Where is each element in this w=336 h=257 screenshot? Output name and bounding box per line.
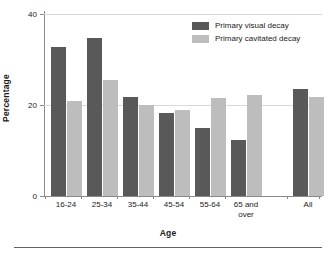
legend-label-visual: Primary visual decay [215, 21, 289, 30]
x-axis-title: Age [0, 228, 336, 238]
bar [103, 80, 118, 196]
bar [159, 113, 174, 196]
chart-legend: Primary visual decay Primary cavitated d… [192, 19, 300, 45]
y-tick-label-20: 20 [28, 101, 37, 110]
x-tick [319, 196, 320, 199]
bar [211, 98, 226, 196]
bar [195, 128, 210, 196]
x-tick [287, 196, 288, 199]
x-axis-line [44, 196, 322, 197]
bar [67, 101, 82, 196]
bar-group [122, 14, 154, 196]
x-category-label-line: over [215, 210, 277, 220]
bar-group [50, 14, 82, 196]
x-category-label-line: 65 and [215, 200, 277, 210]
x-tick [45, 196, 46, 199]
x-category-label-line: All [277, 200, 336, 210]
bar [231, 140, 246, 196]
x-tick [117, 196, 118, 199]
bar-group [158, 14, 190, 196]
x-tick [225, 196, 226, 199]
bar [123, 97, 138, 196]
legend-item-visual: Primary visual decay [192, 19, 300, 32]
bar [309, 97, 324, 196]
y-axis-title: Percentage [1, 74, 11, 122]
bar [139, 105, 154, 196]
y-tick-0 [40, 196, 44, 197]
bar [247, 95, 262, 196]
legend-swatch-cavitated-icon [192, 35, 209, 43]
legend-item-cavitated: Primary cavitated decay [192, 32, 300, 45]
legend-swatch-visual-icon [192, 22, 209, 30]
bar [175, 110, 190, 196]
footer-divider [14, 247, 322, 248]
x-tick [189, 196, 190, 199]
x-tick [153, 196, 154, 199]
bar [293, 89, 308, 196]
x-tick [81, 196, 82, 199]
bar-chart-figure: 02040 16-2425-3435-4445-5455-6465 andove… [0, 0, 336, 257]
bar [51, 47, 66, 196]
bar-group [86, 14, 118, 196]
legend-label-cavitated: Primary cavitated decay [215, 34, 300, 43]
y-tick-label-40: 40 [28, 10, 37, 19]
bar [87, 38, 102, 196]
x-category-label: All [277, 200, 336, 210]
x-category-label: 65 andover [215, 200, 277, 220]
